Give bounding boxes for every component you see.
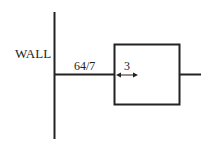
rod-length-label: 64/7 [74,59,95,73]
wall-label: WALL [15,46,51,61]
gap-label: 3 [124,59,130,73]
gap-arrow-icon [116,73,138,78]
diagram-canvas: WALL 64/7 3 [0,0,210,152]
